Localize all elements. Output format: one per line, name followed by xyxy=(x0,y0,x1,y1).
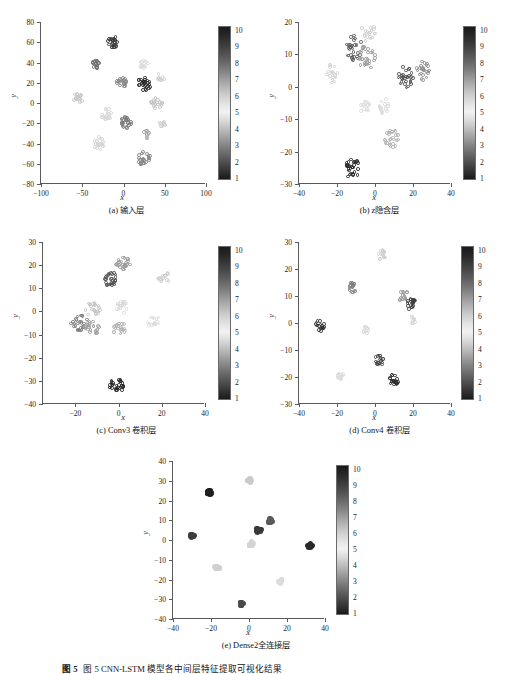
colorbar-tick-label-b: 6 xyxy=(480,91,484,100)
y-axis-label-d: y xyxy=(267,314,276,318)
x-tick-b xyxy=(337,183,338,187)
x-tick-d xyxy=(413,403,414,407)
scatter-point xyxy=(147,323,151,327)
colorbar-tick-label-b: 3 xyxy=(480,141,484,150)
y-tick-label-e: 20 xyxy=(158,496,166,505)
scatter-point xyxy=(348,286,352,290)
scatter-point xyxy=(369,66,373,70)
y-tick-label-d: 10 xyxy=(284,292,292,301)
x-tick-label-e: −20 xyxy=(205,624,217,633)
figure-caption-text: 图 5 CNN-LSTM 模型各中间层特征提取可视化结果 xyxy=(83,664,282,674)
y-tick-label-b: 20 xyxy=(284,18,292,27)
scatter-point xyxy=(421,73,425,77)
scatter-point xyxy=(121,256,125,260)
scatter-point xyxy=(382,256,386,260)
y-tick-label-c: −40 xyxy=(24,400,36,409)
y-tick-label-d: −30 xyxy=(280,400,292,409)
plot-area-e: 403020100−10−20−30−40−40−2002040 xyxy=(172,461,324,619)
x-axis-label-c: x xyxy=(121,413,125,422)
y-tick-label-c: −10 xyxy=(24,330,36,339)
colorbar-tick-label-c: 3 xyxy=(235,361,239,370)
scatter-point xyxy=(103,277,107,281)
colorbar-tick-label-b: 2 xyxy=(480,157,484,166)
scatter-point xyxy=(409,82,413,86)
y-tick-a xyxy=(37,83,41,84)
scatter-point xyxy=(403,82,407,86)
x-tick-e xyxy=(211,618,212,622)
y-tick-label-e: 40 xyxy=(158,457,166,466)
colorbar-tick-label-d: 5 xyxy=(478,328,482,337)
colorbar-tick-label-b: 4 xyxy=(480,124,484,133)
x-tick-b xyxy=(375,183,376,187)
y-tick-e xyxy=(169,501,173,502)
y-tick-a xyxy=(37,42,41,43)
scatter-point xyxy=(115,44,119,48)
y-tick-label-c: 20 xyxy=(28,261,36,270)
colorbar-tick-label-b: 10 xyxy=(480,26,488,35)
scatter-point xyxy=(356,167,360,171)
plot-area-c: 3020100−10−20−30−40−2002040 xyxy=(42,242,204,404)
scatter-point xyxy=(410,306,414,310)
scatter-point xyxy=(146,62,150,66)
scatter-point xyxy=(107,112,111,116)
scatter-point xyxy=(122,85,126,89)
subcaption-e: (e) Dense2全连接层 xyxy=(126,638,386,650)
scatter-point xyxy=(105,107,109,111)
scatter-point xyxy=(421,66,425,70)
x-tick-label-c: 40 xyxy=(201,409,209,418)
x-tick-label-a: −100 xyxy=(33,189,49,198)
colorbar-tick-label-e: 7 xyxy=(353,513,357,522)
colorbar-tick-label-e: 9 xyxy=(353,481,357,490)
scatter-point xyxy=(122,300,126,304)
scatter-point xyxy=(364,57,368,61)
scatter-point xyxy=(108,386,112,390)
x-tick-a xyxy=(165,183,166,187)
scatter-point xyxy=(147,158,151,162)
scatter-point xyxy=(145,152,149,156)
scatter-point xyxy=(254,527,259,532)
scatter-point xyxy=(373,32,377,36)
panel-e: 403020100−10−20−30−40−40−2002040 x y 109… xyxy=(126,443,386,658)
colorbar-tick-label-e: 5 xyxy=(353,545,357,554)
scatter-point xyxy=(351,55,355,59)
y-tick-label-e: −20 xyxy=(154,575,166,584)
scatter-point xyxy=(248,480,253,485)
scatter-point xyxy=(119,78,123,82)
scatter-point xyxy=(137,160,141,164)
scatter-point xyxy=(77,96,81,100)
y-tick-e xyxy=(169,481,173,482)
y-tick-e xyxy=(169,560,173,561)
y-tick-e xyxy=(169,540,173,541)
scatter-point xyxy=(125,125,129,129)
y-tick-label-d: 0 xyxy=(288,319,292,328)
scatter-point xyxy=(122,268,126,272)
scatter-point xyxy=(143,64,147,68)
x-axis-label-e: x xyxy=(246,628,250,637)
x-tick-label-d: −20 xyxy=(331,409,343,418)
y-tick-b xyxy=(295,54,299,55)
colorbar-tick-label-a: 5 xyxy=(235,108,239,117)
scatter-point xyxy=(308,544,313,549)
scatter-point xyxy=(353,37,357,41)
x-axis-label-b: x xyxy=(372,193,376,202)
colorbar-tick-label-a: 7 xyxy=(235,75,239,84)
x-tick-e xyxy=(249,618,250,622)
y-tick-label-c: −20 xyxy=(24,353,36,362)
scatter-point xyxy=(366,47,370,51)
colorbar-tick-label-c: 5 xyxy=(235,328,239,337)
scatter-point xyxy=(147,87,151,91)
colorbar-tick-label-d: 10 xyxy=(478,246,486,255)
scatter-point xyxy=(384,97,388,101)
x-tick-d xyxy=(451,403,452,407)
colorbar-b: 10987654321 xyxy=(463,26,476,180)
y-tick-c xyxy=(39,242,43,243)
y-tick-label-a: −80 xyxy=(22,180,34,189)
panel-d: 3020100−10−20−30−40−2002040 x y 10987654… xyxy=(253,220,506,440)
scatter-point xyxy=(364,325,368,329)
scatter-point xyxy=(413,299,417,303)
scatter-point xyxy=(336,373,340,377)
scatter-point xyxy=(122,322,126,326)
x-axis-label-a: x xyxy=(120,193,124,202)
scatter-point xyxy=(71,320,75,324)
y-tick-c xyxy=(39,288,43,289)
